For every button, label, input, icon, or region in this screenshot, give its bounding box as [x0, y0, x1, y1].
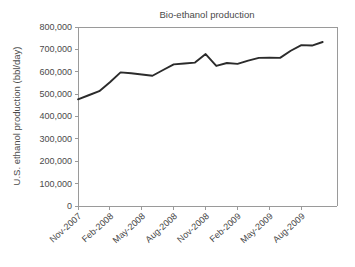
bio-ethanol-line-chart: Bio-ethanol production U.S. ethanol prod… — [0, 0, 355, 267]
y-tick-label: 400,000 — [39, 111, 72, 121]
y-tick-label: 700,000 — [39, 44, 72, 54]
x-tick-label: May-2008 — [111, 211, 147, 245]
x-tick-label: May-2009 — [238, 211, 274, 245]
x-tick-label: Feb-2008 — [80, 211, 115, 244]
chart-container: Bio-ethanol production U.S. ethanol prod… — [0, 0, 355, 267]
chart-title: Bio-ethanol production — [159, 9, 254, 20]
x-tick-label: Nov-2007 — [48, 211, 84, 245]
x-tick-label: Aug-2008 — [143, 211, 179, 245]
y-axis: 0100,000200,000300,000400,000500,000600,… — [39, 22, 78, 211]
y-tick-label: 500,000 — [39, 89, 72, 99]
x-tick-label: Aug-2009 — [271, 211, 307, 245]
y-tick-label: 200,000 — [39, 156, 72, 166]
x-tick-label: Feb-2009 — [208, 211, 243, 244]
y-tick-label: 300,000 — [39, 134, 72, 144]
x-axis: Nov-2007Feb-2008May-2008Aug-2008Nov-2008… — [48, 206, 307, 245]
y-tick-label: 600,000 — [39, 67, 72, 77]
data-series-line — [78, 42, 323, 99]
y-tick-label: 800,000 — [39, 22, 72, 32]
y-axis-title: U.S. ethanol production (bbl/day) — [11, 47, 22, 186]
y-tick-label: 0 — [67, 201, 72, 211]
x-tick-label: Nov-2008 — [175, 211, 211, 245]
y-tick-label: 100,000 — [39, 179, 72, 189]
